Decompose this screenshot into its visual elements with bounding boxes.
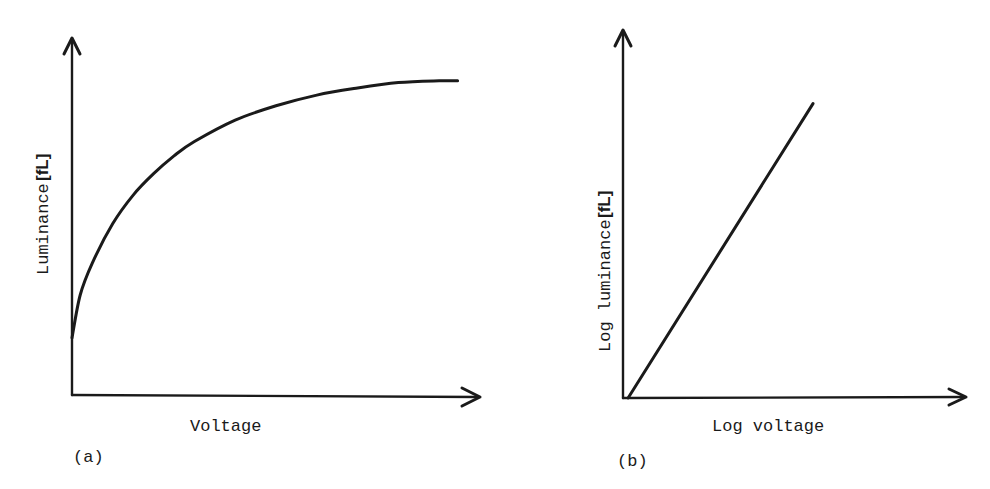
log-luminance-vs-log-voltage-line: [628, 104, 813, 398]
y-axis-label-a-group: Luminance [fL]: [33, 154, 53, 275]
figure: Voltage (a) Luminance [fL] Log voltage (…: [0, 0, 990, 489]
x-axis-label-b: Log voltage: [712, 417, 824, 436]
luminance-vs-voltage-line: [72, 81, 458, 338]
y-axis-unit-a: [fL]: [33, 154, 52, 181]
x-axis-label-a: Voltage: [190, 417, 261, 436]
y-axis-label-b: Log luminance: [596, 219, 615, 352]
panel-label-b: (b): [617, 452, 648, 471]
panel-a: Voltage (a) Luminance [fL]: [33, 38, 480, 467]
x-axis-b: [623, 397, 964, 398]
y-axis-unit-b: [fL]: [595, 191, 614, 218]
panel-b: Log voltage (b) Log luminance [fL]: [595, 30, 966, 471]
y-axis-label-b-group: Log luminance [fL]: [595, 191, 615, 352]
panel-label-a: (a): [73, 448, 104, 467]
y-axis-label-a: Luminance: [34, 183, 53, 275]
x-axis-a: [72, 395, 478, 397]
